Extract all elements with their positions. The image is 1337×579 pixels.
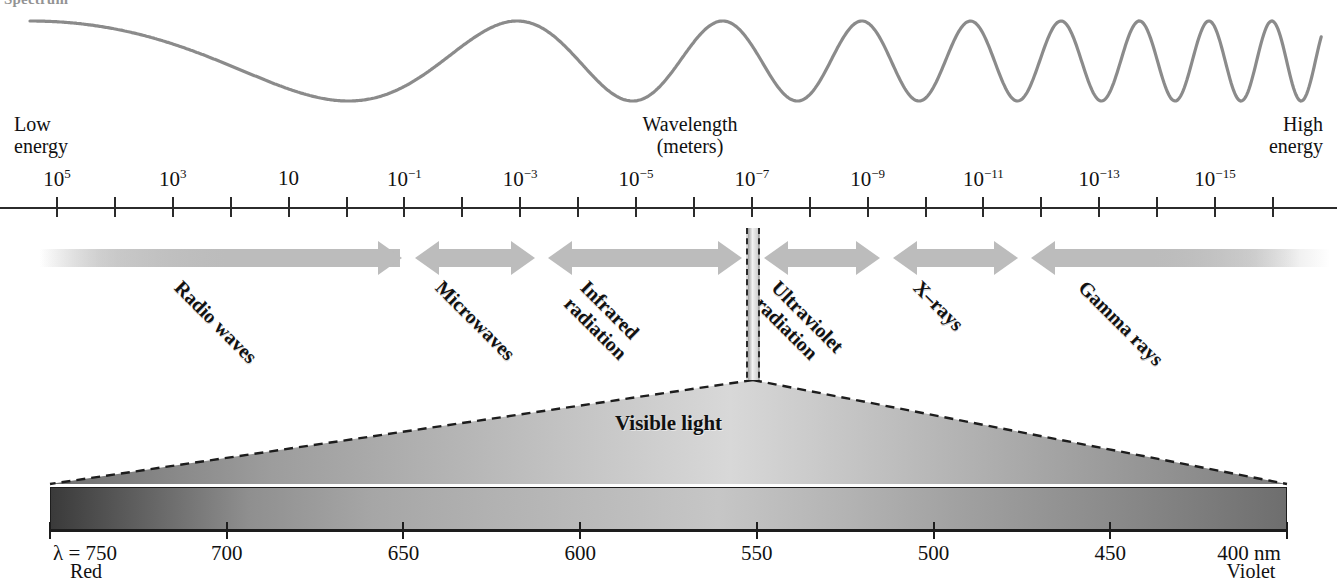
electromagnetic-wave-graphic [0,6,1337,110]
visible-spectrum-tick-label: 450 [1095,541,1127,566]
visible-spectrum-tick [1286,522,1288,539]
visible-spectrum-tick-label: 700 [211,541,243,566]
axis-tick [809,197,811,217]
axis-tick [867,197,869,217]
visible-spectrum-tick-label: 550 [741,541,773,566]
axis-tick [1156,197,1158,217]
visible-light-label: Visible light [0,411,1337,436]
band-label-gamma-rays: Gamma rays [1074,276,1168,370]
axis-tick-exponent: 5 [64,166,71,181]
axis-tick [461,197,463,217]
visible-spectrum-tick [756,522,758,539]
axis-tick [982,197,984,217]
band-segment [917,249,994,267]
axis-tick [1040,197,1042,217]
arrow-right-icon [511,241,535,275]
visible-spectrum-tick [933,522,935,539]
violet-endpoint-label: Violet [1227,560,1276,579]
wavelength-caption-line1: Wavelength [600,113,780,135]
arrow-right-icon [718,241,742,275]
band-segment [572,249,718,267]
band-segment [439,249,511,267]
axis-tick [925,197,927,217]
axis-tick [403,197,405,217]
axis-tick-exponent: −9 [871,166,885,181]
visible-spectrum-axis [50,530,1287,532]
axis-tick [693,197,695,217]
arrow-left-icon [893,241,917,275]
arrow-right-icon [378,241,402,275]
visible-spectrum-tick [49,522,51,539]
arrow-left-icon [764,241,788,275]
high-energy-line1: High [1269,113,1323,135]
axis-tick-exponent: 3 [180,166,187,181]
band-segment [40,249,378,267]
axis-tick [519,197,521,217]
low-energy-label: Low energy [14,113,68,157]
axis-tick-label: 10−9 [850,166,885,192]
axis-tick-label: 10−5 [619,166,654,192]
band-label-x-rays: X–rays [909,276,968,335]
axis-tick-exponent: −15 [1215,166,1235,181]
axis-tick-label: 10−3 [503,166,538,192]
wavelength-axis-caption: Wavelength (meters) [600,113,780,157]
band-label-line: X–rays [909,276,968,335]
axis-tick-label: 10 [278,166,299,191]
visible-spectrum-tick-label: 500 [918,541,950,566]
high-energy-line2: energy [1269,135,1323,157]
visible-spectrum-tick [1109,522,1111,539]
visible-spectrum-tick [226,522,228,539]
axis-tick [1214,197,1216,217]
band-label-line: Microwaves [431,276,519,364]
band-label-infrared-radiation: Infraredradiation [559,276,647,364]
axis-tick [56,197,58,217]
axis-tick-exponent: −3 [524,166,538,181]
axis-tick-exponent: −1 [408,166,422,181]
axis-tick-label: 10−11 [963,166,1004,192]
axis-tick-exponent: −13 [1100,166,1120,181]
visible-spectrum-tick [402,522,404,539]
spectrum-band-row [0,238,1337,278]
axis-tick [635,197,637,217]
low-energy-line1: Low [14,113,68,135]
band-label-ultraviolet-radiation: Ultravioletradiation [750,276,848,374]
axis-tick-label: 10−13 [1079,166,1120,192]
axis-tick [751,197,753,217]
axis-tick-label: 103 [159,166,187,192]
visible-spectrum-tick-label: 600 [564,541,596,566]
axis-tick [172,197,174,217]
axis-tick [1272,197,1274,217]
axis-tick-label: 10−15 [1194,166,1235,192]
arrow-left-icon [1031,241,1055,275]
band-label-radio-waves: Radio waves [170,276,261,367]
red-endpoint-label: Red [70,560,102,579]
high-energy-label: High energy [1269,113,1323,157]
arrow-right-icon [994,241,1018,275]
visible-spectrum-tick-label: 650 [388,541,420,566]
axis-tick-label: 10−7 [734,166,769,192]
em-spectrum-figure: Spectrum Low energy High energy Waveleng… [0,0,1337,579]
band-segment [788,249,856,267]
axis-tick-label: 105 [43,166,71,192]
arrow-left-icon [548,241,572,275]
axis-tick [346,197,348,217]
axis-tick-label: 10−1 [387,166,422,192]
band-label-line: Gamma rays [1074,276,1168,370]
wavelength-caption-line2: (meters) [600,135,780,157]
axis-tick-exponent: −7 [755,166,769,181]
visible-spectrum-tick [579,522,581,539]
visible-light-slit [746,228,760,388]
axis-tick [288,197,290,217]
axis-tick [577,197,579,217]
band-label-microwaves: Microwaves [431,276,519,364]
axis-tick [230,197,232,217]
band-label-line: Radio waves [170,276,261,367]
axis-tick-exponent: −11 [984,166,1004,181]
arrow-right-icon [856,241,880,275]
visible-spectrum-bar [50,487,1287,530]
axis-tick-exponent: −5 [640,166,654,181]
band-segment [1055,249,1300,267]
axis-tick [114,197,116,217]
arrow-left-icon [415,241,439,275]
axis-tick [1098,197,1100,217]
